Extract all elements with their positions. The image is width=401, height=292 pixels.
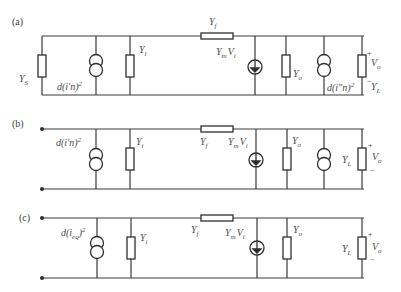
plus-sign: +	[368, 230, 373, 239]
label-yl: YL	[371, 81, 381, 95]
label-yl: YL	[342, 154, 352, 168]
panel-b-label: (b)	[12, 118, 24, 130]
label-ys: YS	[19, 73, 29, 87]
resistor-yo-icon	[282, 55, 290, 77]
resistor-yo-icon	[283, 237, 291, 259]
label-vccs: YmVi	[216, 46, 236, 60]
resistor-yl-icon	[358, 55, 366, 77]
label-noise-eq: d(ieq)2	[61, 226, 86, 241]
input-terminal-bottom	[40, 276, 44, 280]
input-terminal-bottom	[40, 187, 44, 191]
resistor-yl-icon	[358, 237, 366, 259]
minus-sign: −	[370, 255, 375, 264]
resistor-yi-icon	[126, 55, 134, 77]
label-vccs: YmVi	[225, 227, 245, 241]
label-yf: Yf	[191, 224, 200, 238]
panel-c: (c) d(ieq)2 Yi Yf YmVi Yo YL + Vo −	[19, 212, 382, 280]
panel-a: (a) YS d(i'n)2 Yi Yf YmVi Yo	[12, 16, 381, 95]
label-vo: Vo	[372, 241, 382, 255]
label-vo: Vo	[371, 57, 381, 71]
resistor-yf-icon	[201, 126, 233, 132]
label-noise-out: d(i"n)2	[327, 81, 355, 94]
resistor-yi-icon	[127, 237, 135, 259]
label-yi: Yi	[136, 136, 144, 150]
label-vccs: YmVi	[228, 136, 248, 150]
minus-sign: −	[370, 166, 375, 175]
panel-b: (b) d(i'n)2 Yi Yf YmVi Yo YL	[12, 118, 382, 191]
label-yo: Yo	[292, 135, 302, 149]
plus-sign: +	[368, 141, 373, 150]
label-yi: Yi	[140, 232, 148, 246]
panel-c-label: (c)	[19, 212, 30, 224]
label-noise-in: d(i'n)2	[57, 80, 83, 93]
label-vo: Vo	[372, 151, 382, 165]
label-yo: Yo	[293, 224, 303, 238]
label-yf: Yf	[209, 16, 218, 30]
resistor-yf-icon	[201, 215, 233, 221]
resistor-yf-icon	[201, 33, 233, 39]
resistor-yi-icon	[126, 148, 134, 170]
label-yi: Yi	[139, 44, 147, 58]
panel-a-label: (a)	[12, 16, 23, 28]
label-noise-in: d(i'n)2	[56, 136, 82, 149]
resistor-ys-icon	[38, 55, 46, 77]
input-terminal-top	[40, 127, 44, 131]
input-terminal-top	[40, 216, 44, 220]
label-yo: Yo	[293, 68, 303, 82]
label-yf: Yf	[200, 136, 209, 150]
label-yl: YL	[342, 243, 352, 257]
resistor-yl-icon	[358, 148, 366, 170]
circuit-diagram: (a) YS d(i'n)2 Yi Yf YmVi Yo	[0, 0, 401, 292]
resistor-yo-icon	[283, 148, 291, 170]
